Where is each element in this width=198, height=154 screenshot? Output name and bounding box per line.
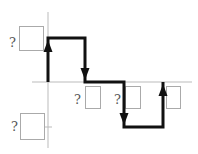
arrow-down-icon [81, 68, 90, 80]
answer-box-x-2[interactable] [126, 87, 141, 109]
arrow-up-icon [44, 40, 53, 52]
answer-box-x-3[interactable] [167, 87, 181, 109]
question-mark-label: ? [114, 92, 121, 107]
arrow-down-icon [120, 113, 129, 125]
answer-box-y-bottom[interactable] [21, 114, 45, 140]
question-mark-label: ? [11, 119, 18, 134]
answer-box-y-top[interactable] [20, 27, 44, 51]
answer-box-x-1[interactable] [86, 87, 101, 109]
question-mark-label: ? [74, 92, 81, 107]
question-mark-label: ? [9, 35, 16, 50]
step-graph-diagram: ???? [0, 0, 198, 154]
